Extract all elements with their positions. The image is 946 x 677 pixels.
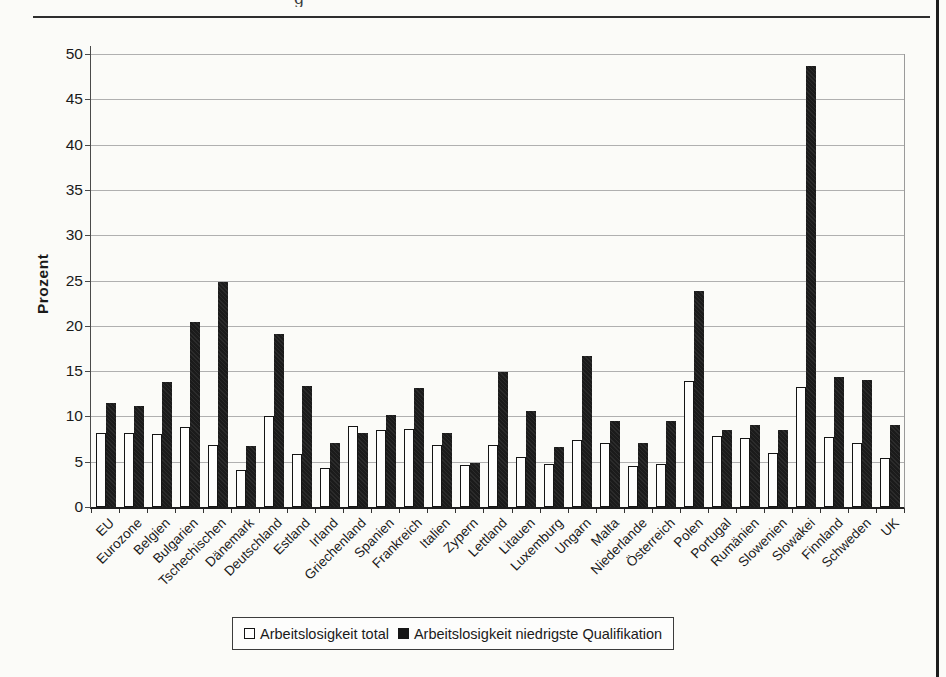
bar-total-Österreich — [656, 464, 666, 507]
bar-total-Niederlande — [628, 466, 638, 507]
bar-total-Eurozone — [124, 433, 134, 507]
bar-lowqual-Estland — [302, 386, 312, 507]
bar-total-EU — [96, 433, 106, 507]
gridline — [91, 235, 904, 236]
y-tick-mark — [85, 235, 91, 236]
y-tick-label: 25 — [0, 272, 83, 290]
bar-total-UK — [880, 458, 890, 507]
bar-lowqual-Zypern — [470, 463, 480, 507]
bar-total-Litauen — [516, 457, 526, 507]
bar-lowqual-Bulgarien — [190, 322, 200, 507]
bar-total-Frankreich — [404, 429, 414, 507]
y-tick-mark — [85, 371, 91, 372]
bar-lowqual-Niederlande — [638, 443, 648, 507]
x-axis-labels: EUEurozoneBelgienBulgarienTschechischenD… — [90, 511, 903, 611]
y-tick-mark — [85, 190, 91, 191]
legend: Arbeitslosigkeit total Arbeitslosigkeit … — [232, 617, 674, 650]
gridline — [91, 326, 904, 327]
bar-lowqual-Schweden — [862, 380, 872, 507]
bar-total-Luxemburg — [544, 464, 554, 507]
gridline — [91, 190, 904, 191]
bar-lowqual-Rumänien — [750, 425, 760, 507]
y-tick-mark — [85, 462, 91, 463]
bar-lowqual-Tschechischen — [218, 282, 228, 507]
bar-total-Dänemark — [236, 470, 246, 507]
bar-lowqual-Ungarn — [582, 356, 592, 507]
bar-total-Italien — [432, 445, 442, 507]
bar-lowqual-Österreich — [666, 421, 676, 507]
plot-area — [90, 54, 905, 509]
bar-lowqual-Lettland — [498, 372, 508, 507]
y-tick-mark — [85, 281, 91, 282]
bar-lowqual-Slowakei — [806, 66, 816, 507]
bar-total-Rumänien — [740, 438, 750, 507]
legend-label-total: Arbeitslosigkeit total — [260, 626, 389, 642]
bar-lowqual-Irland — [330, 443, 340, 507]
x-tick-mark — [904, 509, 905, 513]
bar-total-Estland — [292, 454, 302, 507]
y-tick-label: 50 — [0, 45, 83, 63]
bar-lowqual-Spanien — [386, 415, 396, 507]
black-square-icon — [398, 628, 409, 639]
bar-chart: Prozent 05101520253035404550 EUEurozoneB… — [0, 0, 946, 677]
y-tick-mark — [85, 99, 91, 100]
y-tick-label: 20 — [0, 317, 83, 335]
bar-lowqual-Griechenland — [358, 433, 368, 507]
bar-total-Polen — [684, 381, 694, 507]
bar-lowqual-Eurozone — [134, 406, 144, 507]
bar-total-Slowakei — [796, 387, 806, 507]
legend-label-lowqual: Arbeitslosigkeit niedrigste Qualifikatio… — [414, 626, 662, 642]
y-tick-label: 35 — [0, 181, 83, 199]
bar-total-Finnland — [824, 437, 834, 507]
bar-lowqual-Dänemark — [246, 446, 256, 507]
y-tick-label: 0 — [0, 498, 83, 516]
y-tick-label: 5 — [0, 453, 83, 471]
bar-total-Slowenien — [768, 453, 778, 507]
y-tick-mark — [85, 416, 91, 417]
y-tick-label: 10 — [0, 407, 83, 425]
y-tick-mark — [85, 145, 91, 146]
bar-total-Malta — [600, 443, 610, 507]
bar-lowqual-Malta — [610, 421, 620, 507]
y-tick-label: 30 — [0, 226, 83, 244]
bar-total-Belgien — [152, 434, 162, 507]
bar-total-Ungarn — [572, 440, 582, 507]
bar-lowqual-Luxemburg — [554, 447, 564, 507]
y-tick-label: 15 — [0, 362, 83, 380]
gridline — [91, 99, 904, 100]
bar-lowqual-Belgien — [162, 382, 172, 507]
bar-total-Bulgarien — [180, 427, 190, 507]
bar-lowqual-Frankreich — [414, 388, 424, 507]
y-tick-label: 45 — [0, 90, 83, 108]
bar-total-Deutschland — [264, 416, 274, 508]
y-tick-mark — [85, 326, 91, 327]
bar-lowqual-Portugal — [722, 430, 732, 507]
bar-total-Tschechischen — [208, 445, 218, 508]
y-tick-mark — [85, 507, 91, 508]
bar-lowqual-Deutschland — [274, 334, 284, 507]
gridline — [91, 281, 904, 282]
y-tick-mark — [85, 54, 91, 55]
y-tick-label: 40 — [0, 136, 83, 154]
bar-lowqual-Polen — [694, 291, 704, 507]
gridline — [91, 145, 904, 146]
bar-total-Zypern — [460, 465, 470, 507]
bar-lowqual-EU — [106, 403, 116, 507]
bar-lowqual-Italien — [442, 433, 452, 507]
bar-lowqual-Slowenien — [778, 430, 788, 507]
gridline — [91, 54, 904, 55]
bar-total-Lettland — [488, 445, 498, 508]
bar-total-Spanien — [376, 430, 386, 507]
bar-lowqual-Litauen — [526, 411, 536, 507]
white-square-icon — [244, 628, 255, 639]
bar-total-Griechenland — [348, 426, 358, 507]
bar-lowqual-UK — [890, 425, 900, 507]
bar-total-Irland — [320, 468, 330, 507]
legend-item-lowqual: Arbeitslosigkeit niedrigste Qualifikatio… — [398, 626, 662, 642]
y-axis-line — [90, 46, 91, 54]
y-axis-tick-labels: 05101520253035404550 — [0, 54, 83, 507]
bar-total-Schweden — [852, 443, 862, 507]
bar-lowqual-Finnland — [834, 377, 844, 507]
bar-total-Portugal — [712, 436, 722, 507]
legend-item-total: Arbeitslosigkeit total — [244, 626, 389, 642]
